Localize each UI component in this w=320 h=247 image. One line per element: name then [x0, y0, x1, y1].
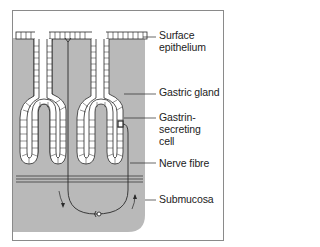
label-surface-epithelium: Surface epithelium — [159, 29, 206, 53]
label-line: Nerve fibre — [159, 157, 209, 169]
label-line: epithelium — [159, 41, 206, 53]
label-nerve-fibre: Nerve fibre — [159, 157, 209, 169]
gastrin-secreting-cell — [118, 121, 123, 127]
label-line: cell — [159, 135, 201, 147]
label-gastric-gland: Gastric gland — [159, 86, 220, 98]
label-line: secreting — [159, 123, 201, 135]
label-line: Surface — [159, 29, 206, 41]
label-submucosa: Submucosa — [159, 193, 214, 205]
label-line: Gastric gland — [159, 86, 220, 98]
label-gastrin-secreting-cell: Gastrin- secreting cell — [159, 111, 201, 147]
label-line: Submucosa — [159, 193, 214, 205]
label-line: Gastrin- — [159, 111, 201, 123]
